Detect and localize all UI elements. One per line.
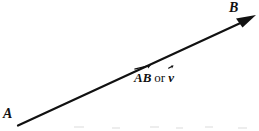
vector-arrow-graphic <box>0 0 259 131</box>
vector-name-label: AB or v <box>134 64 174 84</box>
scan-artifact <box>238 127 247 129</box>
scan-artifact <box>205 126 213 128</box>
vector-notation-ab: AB <box>134 64 151 84</box>
scan-artifact <box>74 126 84 128</box>
vector-label-conjunction: or <box>151 64 168 84</box>
vector-diagram-figure: A B AB or v <box>0 0 259 131</box>
vector-arrowhead <box>236 15 256 28</box>
scan-artifact <box>112 127 120 129</box>
vector-overarrow-icon <box>134 64 151 71</box>
vector-overarrow-icon-v <box>168 64 174 71</box>
vector-notation-ab-text: AB <box>134 70 151 85</box>
vector-notation-v-text: v <box>168 70 174 85</box>
vector-shaft-line <box>18 20 247 126</box>
point-label-a: A <box>3 107 12 121</box>
scan-artifact <box>150 126 159 128</box>
vector-notation-v: v <box>168 64 174 84</box>
scan-artifact <box>176 127 183 129</box>
point-label-b: B <box>229 1 238 15</box>
